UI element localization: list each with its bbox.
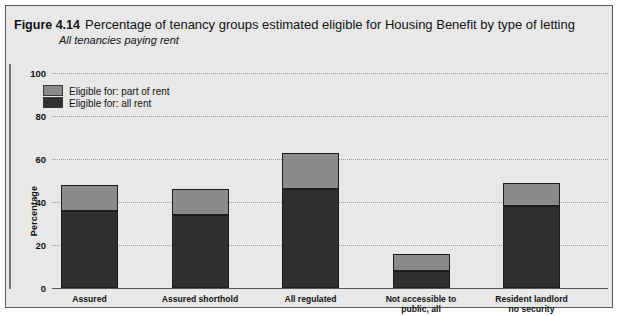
y-tick-0: 0 [12,283,46,294]
bar-1 [61,185,118,288]
x-axis-label-2: Assured shorthold [144,294,256,304]
gridline-0 [52,288,608,289]
figure-header: Figure 4.14Percentage of tenancy groups … [6,6,612,54]
legend-item-all-rent: Eligible for: all rent [43,93,151,105]
legend-item-part-of-rent: Eligible for: part of rent [43,81,170,93]
figure-number: Figure 4.14 [14,18,80,32]
figure-subtitle: All tenancies paying rent [59,34,179,46]
bar-segment-all-rent [282,189,339,288]
bar-segment-all-rent [61,211,118,288]
bar-segment-part-of-rent [172,189,229,215]
gridline-80 [52,116,608,117]
legend-swatch-all-rent [43,97,63,108]
page-title: Percentage of tenancy groups estimated e… [85,17,575,32]
x-axis-label-3: All regulated [255,294,367,304]
bar-segment-part-of-rent [393,254,450,271]
x-axis-label-5: Resident landlordno security [476,294,588,314]
bar-5 [503,183,560,288]
bar-3 [282,153,339,288]
bar-segment-all-rent [503,206,560,288]
legend-label-all-rent: Eligible for: all rent [69,98,151,109]
y-tick-80: 80 [12,111,46,122]
gridline-100 [52,73,608,74]
figure-title-line: Figure 4.14Percentage of tenancy groups … [14,15,575,33]
y-tick-100: 100 [12,68,46,79]
bar-4 [393,254,450,288]
y-tick-60: 60 [12,154,46,165]
y-tick-40: 40 [12,197,46,208]
bar-segment-all-rent [172,215,229,288]
bar-segment-part-of-rent [282,153,339,190]
bar-segment-all-rent [393,271,450,288]
bar-segment-part-of-rent [61,185,118,211]
y-axis-line [9,64,11,289]
bar-2 [172,189,229,288]
bar-segment-part-of-rent [503,183,560,207]
x-axis-label-4: Not accessible topublic, all [365,294,477,314]
chart-plot-area: Percentage 100 80 60 40 20 0 Eligible fo… [6,54,614,309]
figure-panel: Figure 4.14Percentage of tenancy groups … [5,5,613,308]
x-axis-label-1: Assured [34,294,146,304]
y-tick-20: 20 [12,240,46,251]
